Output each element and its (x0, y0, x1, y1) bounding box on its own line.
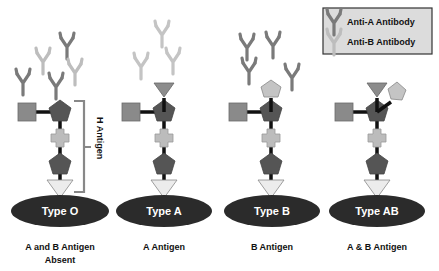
anti-a-antibody-icon (240, 34, 254, 60)
type-ab-label: Type AB (355, 205, 398, 217)
anti-a-antibody-icon (285, 64, 299, 90)
a-antigen-triangle-icon (367, 83, 387, 97)
type-o-group: H Antigen Type O A and B Antigen Absent (11, 33, 109, 265)
anti-b-antibody-icon (36, 48, 50, 74)
b-antigen-pentagon-icon (261, 80, 281, 97)
h-antigen-label: H Antigen (95, 117, 105, 159)
anti-a-antibody-icon (16, 69, 30, 95)
anti-b-antibody-icon (155, 21, 169, 47)
legend-anti-b-label: Anti-B Antibody (347, 37, 415, 47)
type-a-label: Type A (146, 205, 182, 217)
legend: Anti-A Antibody Anti-B Antibody (323, 8, 432, 55)
type-o-caption-line2: Absent (45, 255, 76, 265)
anti-b-antibody-icon (166, 48, 180, 74)
type-b-label: Type B (254, 205, 290, 217)
anti-a-antibody-icon (266, 32, 280, 58)
anti-b-antibody-icon (68, 59, 82, 85)
b-antigen-pentagon-icon (388, 82, 406, 100)
type-b-group: Type B B Antigen (224, 32, 320, 252)
a-antigen-chain (122, 83, 177, 212)
h-antigen-bracket (74, 101, 91, 192)
type-a-group: Type A A Antigen (116, 21, 212, 252)
ab-antigen-chain (335, 82, 406, 212)
a-antigen-triangle-icon (154, 83, 174, 97)
type-o-label: Type O (42, 205, 79, 217)
anti-b-antibody-icon (134, 53, 148, 79)
type-b-caption: B Antigen (251, 242, 293, 252)
anti-a-antibody-icon (49, 73, 63, 99)
anti-a-antibody-icon (242, 58, 256, 84)
anti-a-antibody-icon (60, 33, 74, 59)
type-ab-group: Type AB A & B Antigen (329, 82, 425, 252)
type-a-caption: A Antigen (143, 242, 185, 252)
type-o-caption: A and B Antigen (25, 242, 94, 252)
legend-anti-a-label: Anti-A Antibody (347, 17, 415, 27)
blood-type-diagram: Anti-A Antibody Anti-B Antibody H Antige… (0, 0, 439, 271)
b-antigen-chain (229, 80, 284, 212)
type-ab-caption: A & B Antigen (347, 242, 407, 252)
